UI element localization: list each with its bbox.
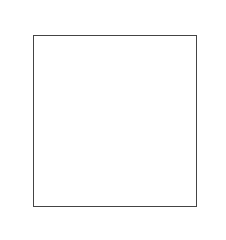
- puzzle-grid: [33, 35, 197, 207]
